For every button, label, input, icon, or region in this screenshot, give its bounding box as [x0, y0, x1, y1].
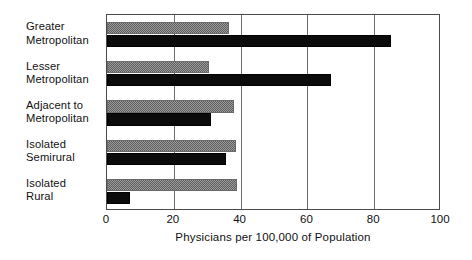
x-tick-0: 0	[103, 212, 109, 226]
x-axis-title: Physicians per 100,000 of Population	[106, 230, 440, 245]
bar-series-gray-2	[107, 100, 234, 112]
x-tick-20: 20	[166, 212, 179, 226]
x-tick-60: 60	[300, 212, 313, 226]
bar-series-black-2	[107, 113, 211, 125]
bar-series-gray-3	[107, 140, 236, 152]
bar-series-gray-4	[107, 179, 237, 191]
bar-series-black-1	[107, 74, 331, 86]
category-axis-labels: Greater MetropolitanLesser MetropolitanA…	[0, 14, 100, 210]
category-label-2: Adjacent to Metropolitan	[26, 99, 112, 125]
category-label-3: Isolated Semirural	[26, 138, 112, 164]
bar-series-gray-1	[107, 61, 209, 73]
bar-series-gray-0	[107, 22, 229, 34]
x-tick-100: 100	[430, 212, 449, 226]
plot-area	[106, 14, 440, 210]
x-tick-80: 80	[367, 212, 380, 226]
x-axis-tick-labels: 020406080100	[106, 212, 440, 228]
bar-series-black-0	[107, 35, 391, 47]
bar-series-black-3	[107, 153, 226, 165]
category-label-0: Greater Metropolitan	[26, 20, 112, 46]
bar-chart: Greater MetropolitanLesser MetropolitanA…	[0, 0, 472, 260]
x-tick-40: 40	[233, 212, 246, 226]
category-label-1: Lesser Metropolitan	[26, 60, 112, 86]
category-label-4: Isolated Rural	[26, 177, 112, 203]
bar-series-black-4	[107, 192, 130, 204]
bars-layer	[107, 15, 439, 209]
